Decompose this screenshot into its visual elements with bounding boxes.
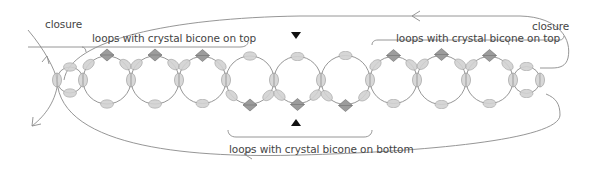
label-top-right: loops with crystal bicone on top xyxy=(396,32,560,44)
beading-diagram: closure closure loops with crystal bicon… xyxy=(0,0,591,177)
seed-bead-bottom xyxy=(483,99,496,107)
thread-left-entry xyxy=(28,30,57,80)
label-closure-left: closure xyxy=(45,18,82,30)
seed-bead-bottom xyxy=(520,89,533,97)
arrow-left-entry-icon xyxy=(42,56,49,64)
label-bottom: loops with crystal bicone on bottom xyxy=(229,143,414,155)
label-closure-right: closure xyxy=(532,20,569,32)
seed-bead-bottom xyxy=(149,100,162,108)
thread-top-path xyxy=(64,16,569,80)
seed-bead-bottom xyxy=(101,100,114,108)
bracket-bottom xyxy=(228,130,372,137)
seed-bead-top xyxy=(244,52,257,60)
seed-bead-bottom xyxy=(435,100,448,108)
triangle-up-icon xyxy=(291,119,301,126)
label-top-left: loops with crystal bicone on top xyxy=(92,32,256,44)
seed-bead-bottom xyxy=(64,89,77,97)
seed-bead-top xyxy=(520,62,533,70)
seed-bead-top xyxy=(339,51,352,59)
seed-bead-bottom xyxy=(387,99,400,107)
seed-bead-top xyxy=(291,52,304,60)
seed-bead-bottom xyxy=(196,99,209,107)
seed-bead-top xyxy=(64,63,77,71)
triangle-down-icon xyxy=(291,32,301,39)
thread-left-exit xyxy=(32,82,58,126)
